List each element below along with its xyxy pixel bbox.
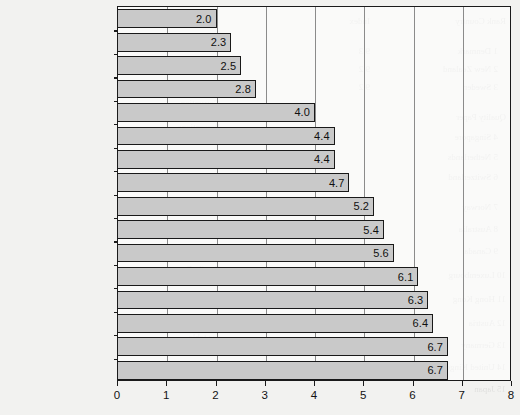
bar-value-label: 2.5: [221, 60, 241, 72]
y-axis-tick: [114, 335, 118, 336]
bar: 5.4: [118, 220, 384, 239]
bar-row: 4.4US: [118, 127, 510, 146]
x-axis-tick-label: 5: [348, 389, 378, 401]
y-axis-tick: [114, 77, 118, 78]
x-axis-tick-label: 4: [299, 389, 329, 401]
bar-row: 4.0Russian Federation: [118, 103, 510, 122]
x-axis-tick: [413, 381, 414, 386]
bar-row: 6.3Singapore: [118, 291, 510, 310]
bar-row: 2.8Brazil: [118, 80, 510, 99]
y-axis-tick: [114, 218, 118, 219]
bar: 2.3: [118, 33, 231, 52]
bar-row: 2.5Kenya: [118, 56, 510, 75]
x-axis-tick-label: 8: [496, 389, 520, 401]
bar-row: 6.4Germany: [118, 314, 510, 333]
y-axis-tick: [114, 312, 118, 313]
bar-value-label: 4.4: [314, 153, 334, 165]
y-axis-tick: [114, 30, 118, 31]
bar: 6.1: [118, 267, 418, 286]
bar-row: 6.1United Arab Emirates: [118, 267, 510, 286]
y-axis-tick: [114, 288, 118, 289]
bar-row: 6.7Finland: [118, 337, 510, 356]
bar: 6.3: [118, 291, 428, 310]
bar-value-label: 4.4: [314, 130, 334, 142]
bar-rows: 2.0El Salvador2.3South Africa2.5Kenya2.8…: [118, 7, 510, 380]
bar-value-label: 4.7: [329, 177, 349, 189]
x-axis-tick-label: 2: [201, 389, 231, 401]
bar: 4.4: [118, 150, 335, 169]
x-axis: 012345678: [117, 381, 511, 415]
x-axis-tick-label: 0: [102, 389, 132, 401]
bar-chart: 2.0El Salvador2.3South Africa2.5Kenya2.8…: [0, 0, 520, 415]
x-axis-tick-label: 3: [250, 389, 280, 401]
bar-value-label: 2.8: [235, 83, 255, 95]
bar: 2.0: [118, 9, 217, 28]
x-axis-tick-label: 7: [447, 389, 477, 401]
bar-value-label: 5.2: [354, 200, 374, 212]
x-axis-tick: [216, 381, 217, 386]
x-axis-tick: [117, 381, 118, 386]
bar-value-label: 6.7: [427, 341, 447, 353]
bar: 6.7: [118, 337, 448, 356]
bar: 2.8: [118, 80, 256, 99]
bar: 5.6: [118, 244, 394, 263]
x-axis-tick: [363, 381, 364, 386]
bar-row: 5.2India: [118, 197, 510, 216]
x-axis-tick: [166, 381, 167, 386]
bar: 6.7: [118, 361, 448, 380]
bar-value-label: 4.0: [294, 106, 314, 118]
bar: 6.4: [118, 314, 433, 333]
bar-row: 5.6Australia: [118, 244, 510, 263]
bar-value-label: 6.4: [413, 317, 433, 329]
bar: 4.7: [118, 173, 349, 192]
y-axis-tick: [114, 195, 118, 196]
bar-row: 2.0El Salvador: [118, 9, 510, 28]
x-axis-tick-label: 1: [151, 389, 181, 401]
bar: 4.4: [118, 127, 335, 146]
bar-value-label: 5.4: [363, 224, 383, 236]
y-axis-tick: [114, 148, 118, 149]
bar-row: 5.4Japan: [118, 220, 510, 239]
bar-value-label: 6.7: [427, 364, 447, 376]
bar-value-label: 2.0: [196, 13, 216, 25]
x-axis-tick: [462, 381, 463, 386]
y-axis-tick: [114, 101, 118, 102]
bar-row: 6.7Syria: [118, 361, 510, 380]
y-axis-tick: [114, 359, 118, 360]
x-axis-tick: [314, 381, 315, 386]
bar-value-label: 6.1: [398, 271, 418, 283]
x-axis-tick: [511, 381, 512, 386]
bar-row: 4.4China: [118, 150, 510, 169]
x-axis-tick: [265, 381, 266, 386]
bar-value-label: 5.6: [373, 247, 393, 259]
plot-area: 2.0El Salvador2.3South Africa2.5Kenya2.8…: [117, 6, 511, 381]
bar-row: 4.7UK: [118, 173, 510, 192]
bar: 5.2: [118, 197, 374, 216]
y-axis-tick: [114, 241, 118, 242]
x-axis-tick-label: 6: [398, 389, 428, 401]
y-axis-tick: [114, 171, 118, 172]
bar: 4.0: [118, 103, 315, 122]
bar: 2.5: [118, 56, 241, 75]
bar-value-label: 2.3: [211, 36, 231, 48]
bar-row: 2.3South Africa: [118, 33, 510, 52]
y-axis-tick: [114, 265, 118, 266]
y-axis-tick: [114, 54, 118, 55]
bar-value-label: 6.3: [408, 294, 428, 306]
y-axis-tick: [114, 124, 118, 125]
